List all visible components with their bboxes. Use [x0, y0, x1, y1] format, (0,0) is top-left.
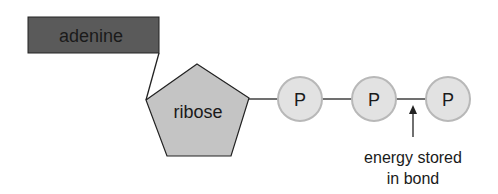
phosphate-1-label: P	[294, 90, 306, 110]
phosphate-1: P	[278, 77, 322, 121]
adenine-label: adenine	[59, 26, 123, 46]
ribose-pentagon: ribose	[146, 64, 249, 156]
phosphate-2-label: P	[368, 90, 380, 110]
phosphate-2: P	[352, 77, 396, 121]
ribose-label: ribose	[173, 102, 222, 122]
phosphate-3-label: P	[442, 90, 454, 110]
annotation-line-2: in bond	[387, 170, 440, 187]
adenine-box: adenine	[28, 17, 159, 53]
arrow-up-icon	[409, 105, 417, 137]
phosphate-3: P	[426, 77, 470, 121]
atp-diagram: adenine ribose P P P energy stored in bo…	[0, 0, 498, 194]
annotation-line-1: energy stored	[364, 149, 462, 166]
